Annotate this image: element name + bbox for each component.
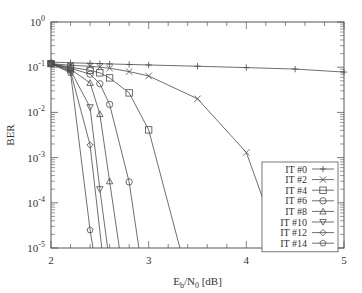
legend-label: IT #4 — [285, 185, 307, 196]
legend-label: IT #2 — [285, 174, 307, 185]
x-axis-label: Eb/N0 [dB] — [173, 275, 222, 290]
series-it-6 — [48, 60, 139, 248]
series-it-2 — [48, 60, 281, 248]
legend-label: IT #8 — [285, 206, 307, 217]
legend: IT #0IT #2IT #4IT #6IT #8IT #10IT #12IT … — [262, 162, 338, 252]
y-tick-label: 100 — [30, 14, 45, 28]
series-it-12 — [48, 60, 102, 248]
y-tick-label: 10-5 — [27, 240, 45, 254]
legend-label: IT #6 — [285, 195, 307, 206]
series-it-8 — [48, 60, 120, 248]
ber-chart: 10010-110-210-310-410-5 2345 BER Eb/N0 [… — [0, 0, 362, 293]
legend-label: IT #12 — [280, 227, 307, 238]
y-tick-label: 10-1 — [27, 59, 45, 73]
x-tick-label: 5 — [341, 254, 347, 266]
x-tick-label: 2 — [48, 254, 54, 266]
series-it-4 — [48, 60, 180, 248]
y-tick-label: 10-4 — [27, 195, 45, 209]
x-tick-label: 4 — [244, 254, 250, 266]
series-it-14 — [48, 60, 93, 248]
legend-label: IT #14 — [280, 238, 307, 249]
y-axis-label: BER — [4, 124, 16, 146]
x-tick-label: 3 — [146, 254, 152, 266]
legend-label: IT #0 — [285, 164, 307, 175]
y-tick-label: 10-3 — [27, 150, 45, 164]
legend-label: IT #10 — [280, 217, 307, 228]
y-tick-label: 10-2 — [27, 104, 45, 118]
